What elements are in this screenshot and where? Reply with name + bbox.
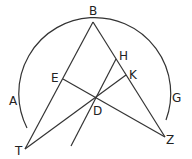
line-EZ bbox=[63, 79, 165, 137]
line-H-through-D bbox=[71, 59, 116, 146]
geometry-diagram: B H E K A G D T Z bbox=[0, 0, 192, 159]
label-K: K bbox=[129, 68, 138, 82]
label-T: T bbox=[14, 144, 23, 158]
label-D: D bbox=[93, 104, 102, 118]
line-BT bbox=[25, 22, 93, 149]
label-A: A bbox=[9, 94, 18, 108]
label-G: G bbox=[172, 91, 181, 105]
label-Z: Z bbox=[166, 133, 174, 147]
label-B: B bbox=[89, 4, 97, 18]
label-H: H bbox=[119, 49, 128, 63]
label-E: E bbox=[51, 71, 59, 85]
